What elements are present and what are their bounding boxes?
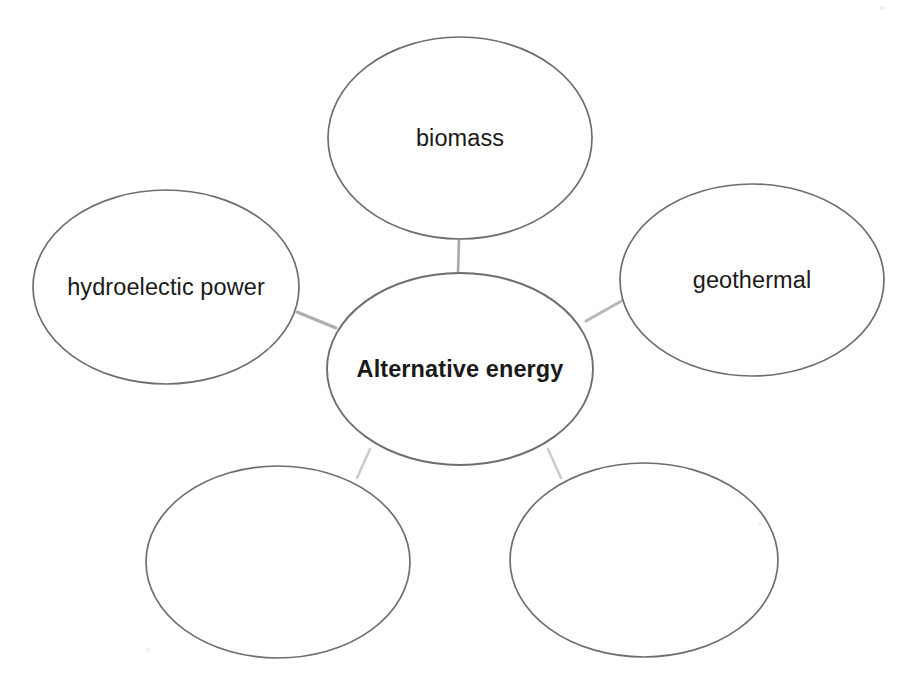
scan-speck-2 bbox=[146, 648, 149, 651]
connector-center-to-right bbox=[586, 299, 625, 321]
connector-center-to-bottom-left bbox=[357, 449, 370, 478]
connector-center-to-top bbox=[458, 239, 459, 273]
node-ellipse-top[interactable] bbox=[328, 37, 592, 239]
node-ellipse-bottom-left[interactable] bbox=[146, 466, 410, 658]
concept-map-canvas: Alternative energybiomasshydroelectic po… bbox=[0, 0, 909, 686]
node-ellipse-layer bbox=[33, 37, 884, 658]
node-ellipse-left[interactable] bbox=[33, 190, 299, 384]
connector-center-to-bottom-right bbox=[548, 449, 561, 478]
scan-speck-0 bbox=[268, 347, 271, 350]
concept-map-graphics bbox=[0, 0, 909, 686]
scan-speck-1 bbox=[758, 522, 761, 525]
node-ellipse-bottom-right[interactable] bbox=[510, 463, 778, 657]
node-ellipse-center[interactable] bbox=[327, 273, 593, 465]
connector-center-to-left bbox=[297, 312, 336, 328]
scan-speck-3 bbox=[880, 6, 884, 10]
node-ellipse-right[interactable] bbox=[620, 184, 884, 376]
